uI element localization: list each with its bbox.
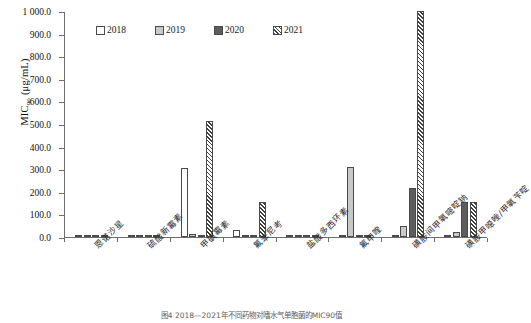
- bar-2018[interactable]: [75, 235, 82, 237]
- bar-2021[interactable]: [206, 121, 213, 237]
- x-label-cell: 磺胺间甲氧嘧啶钠: [382, 240, 435, 306]
- bar-2018[interactable]: [444, 235, 451, 237]
- bar-2019[interactable]: [347, 167, 354, 237]
- bar-2018[interactable]: [339, 235, 346, 237]
- x-label-cell: 氟苯尼考: [224, 240, 277, 306]
- bar-2018[interactable]: [233, 230, 240, 237]
- y-axis-tick: 800.0: [59, 57, 64, 58]
- bar-2019[interactable]: [136, 235, 143, 237]
- y-axis-tick: 300.0: [59, 170, 64, 171]
- y-axis-tick-label: 800.0: [30, 52, 51, 62]
- bar-group: [329, 12, 382, 237]
- bar-2019[interactable]: [295, 235, 302, 237]
- bar-2018[interactable]: [286, 235, 293, 237]
- bar-group: [276, 12, 329, 237]
- bar-2018[interactable]: [392, 235, 399, 237]
- figure-caption: 图4 2018—2021年不同药物对嗜水气单胞菌的MIC90值: [0, 309, 503, 320]
- bar-2019[interactable]: [84, 235, 91, 237]
- y-axis-tick: 200.0: [59, 193, 64, 194]
- y-axis-tick-label: 300.0: [30, 165, 51, 175]
- y-axis-tick-label: 200.0: [30, 188, 51, 198]
- plot-area: 0.0100.0200.0300.0400.0500.0600.0700.080…: [64, 12, 487, 238]
- bar-2020[interactable]: [461, 202, 468, 237]
- y-axis-tick-label: 100.0: [30, 210, 51, 220]
- bar-2018[interactable]: [181, 168, 188, 237]
- bar-group: [65, 12, 118, 237]
- x-label-cell: 磺胺甲噁唑/甲氧苄啶: [435, 240, 488, 306]
- bar-group: [223, 12, 276, 237]
- x-axis-labels: 恩诺沙星硫酸新霉素甲砜霉素氟苯尼考盐酸多西环素氟甲喹磺胺间甲氧嘧啶钠磺胺甲噁唑/…: [65, 240, 488, 306]
- bar-group: [118, 12, 171, 237]
- y-axis-title-unit: (μg/mL): [19, 58, 30, 95]
- y-axis-tick-label: 600.0: [30, 97, 51, 107]
- bar-2019[interactable]: [189, 234, 196, 237]
- bar-groups: [65, 12, 487, 237]
- x-label-cell: 硫酸新霉素: [118, 240, 171, 306]
- bar-2018[interactable]: [128, 235, 135, 237]
- x-label-cell: 恩诺沙星: [65, 240, 118, 306]
- y-axis-tick-label: 0.0: [39, 233, 51, 243]
- bar-group: [382, 12, 435, 237]
- x-label-cell: 盐酸多西环素: [277, 240, 330, 306]
- y-axis-tick-label: 700.0: [30, 75, 51, 85]
- y-axis-tick: 900.0: [59, 35, 64, 36]
- y-axis-title-main: MIC: [19, 105, 30, 125]
- y-axis-title: MIC90 (μg/mL): [19, 22, 33, 162]
- y-axis-tick-label: 1 000.0: [23, 7, 52, 17]
- bar-group: [171, 12, 224, 237]
- y-axis-tick: 700.0: [59, 80, 64, 81]
- y-axis-tick: 400.0: [59, 148, 64, 149]
- y-axis-tick: 500.0: [59, 125, 64, 126]
- y-axis-tick-label: 900.0: [30, 30, 51, 40]
- bar-2021[interactable]: [417, 11, 424, 237]
- bar-2019[interactable]: [453, 232, 460, 237]
- y-axis-tick: 1 000.0: [59, 12, 64, 13]
- bar-2020[interactable]: [409, 188, 416, 237]
- y-axis-tick: 600.0: [59, 102, 64, 103]
- x-label-cell: 甲砜霉素: [171, 240, 224, 306]
- bar-2019[interactable]: [400, 226, 407, 237]
- y-axis-tick: 100.0: [59, 215, 64, 216]
- x-label-cell: 氟甲喹: [329, 240, 382, 306]
- y-axis-tick-label: 400.0: [30, 143, 51, 153]
- bar-2019[interactable]: [242, 235, 249, 237]
- y-axis-tick-label: 500.0: [30, 120, 51, 130]
